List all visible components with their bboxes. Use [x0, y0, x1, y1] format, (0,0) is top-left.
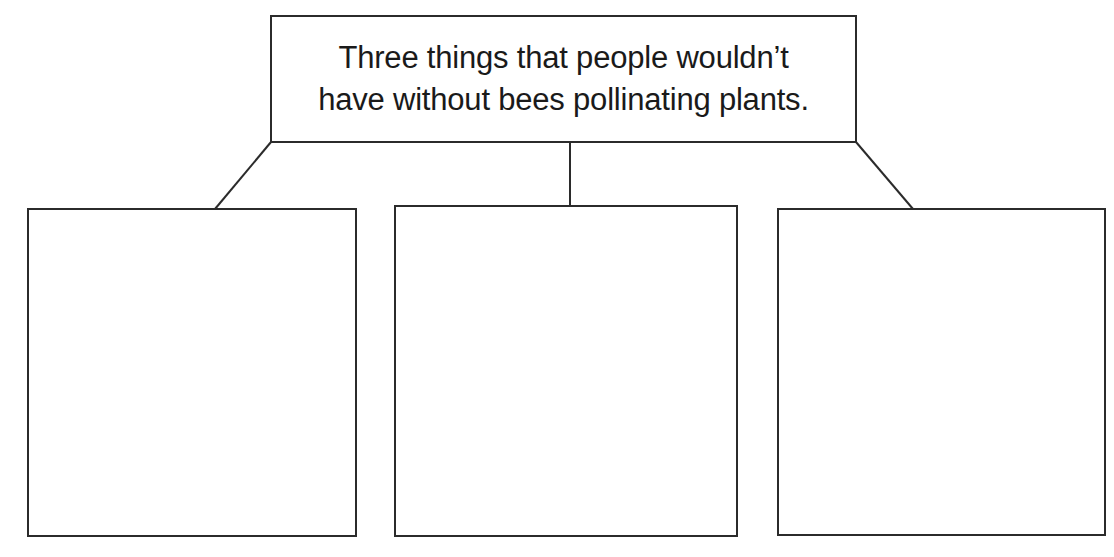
title-line-1: Three things that people wouldn’t [338, 37, 788, 79]
title-box: Three things that people wouldn’t have w… [270, 15, 857, 143]
answer-box-2[interactable] [394, 205, 738, 537]
connector-right [856, 142, 913, 209]
answer-box-3[interactable] [777, 208, 1106, 536]
title-line-2: have without bees pollinating plants. [318, 79, 809, 121]
connector-left [215, 142, 271, 209]
answer-box-1[interactable] [27, 208, 357, 537]
